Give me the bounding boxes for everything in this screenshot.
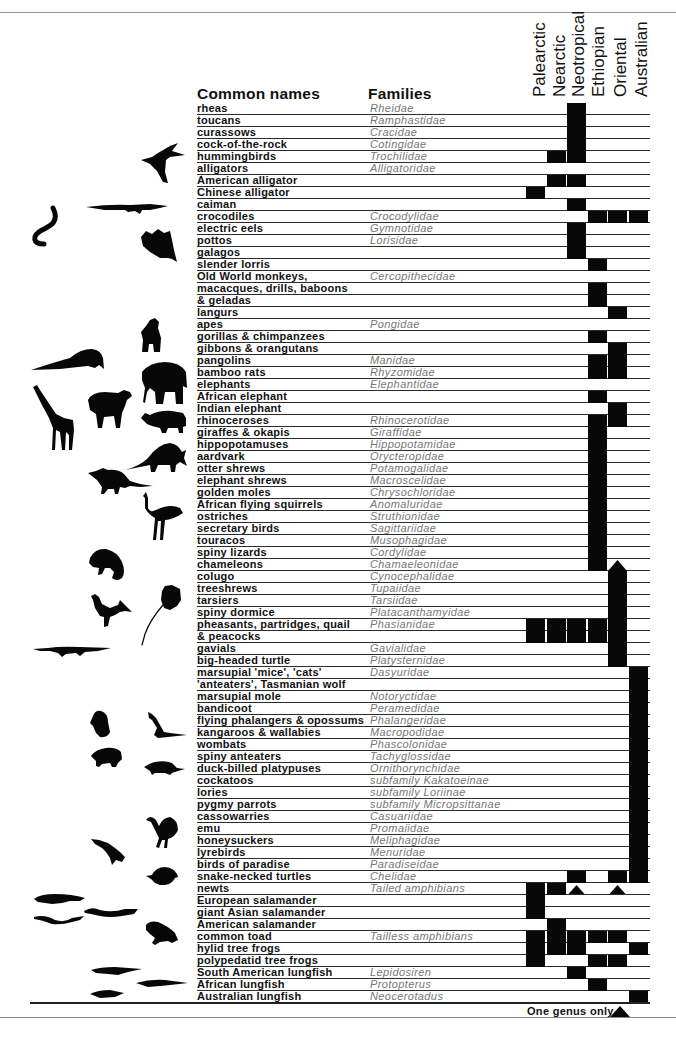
animal-silhouettes	[0, 0, 676, 1038]
tarsier-icon	[142, 585, 181, 645]
ostrich-icon	[143, 492, 183, 540]
gorilla-icon	[141, 318, 161, 352]
caiman-icon	[86, 204, 168, 214]
pheasant-icon	[91, 594, 132, 627]
electric-eel-icon	[35, 208, 56, 244]
african-elephant-icon	[88, 390, 132, 428]
elephant-shrew-icon	[88, 468, 153, 494]
pangolin-icon	[31, 349, 104, 370]
salamander-icon	[34, 916, 84, 924]
toad-icon	[146, 921, 178, 945]
chameleon-icon	[89, 549, 124, 580]
giant-salamander-icon	[84, 908, 138, 917]
emu-icon	[146, 817, 178, 848]
south-american-lungfish-icon	[91, 967, 142, 975]
african-lungfish-icon	[90, 990, 124, 998]
newt-icon	[34, 894, 85, 904]
australian-lungfish-icon	[136, 980, 188, 987]
rhinoceros-icon	[141, 411, 186, 433]
indian-elephant-icon	[142, 362, 187, 404]
wombat-icon	[91, 748, 122, 767]
kangaroo-icon	[148, 712, 187, 738]
gavial-icon	[33, 647, 111, 657]
potto-icon	[141, 229, 177, 262]
aardvark-icon	[125, 443, 187, 472]
giraffe-icon	[33, 385, 74, 450]
koala-icon	[90, 711, 110, 737]
snake-necked-turtle-icon	[146, 867, 178, 885]
hummingbird-icon	[141, 143, 185, 183]
platypus-icon	[144, 761, 185, 775]
bird-of-paradise-icon	[91, 839, 125, 865]
